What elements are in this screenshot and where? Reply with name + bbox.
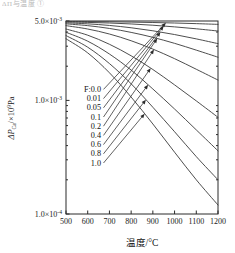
legend-leader-line — [104, 102, 144, 154]
y-axis-title-symbol: ΔP — [6, 129, 16, 140]
y-axis-title: ΔPCa/×109Pa — [6, 96, 17, 140]
x-tick-label: 1100 — [188, 217, 204, 226]
legend-label: 0.8 — [91, 149, 101, 158]
legend-label: 0.4 — [91, 131, 101, 140]
data-curves — [66, 22, 218, 206]
y-tick-label: 5.0×10-3 — [35, 16, 62, 26]
legend-leader-line — [104, 71, 149, 136]
legend-label: 1.0 — [91, 159, 101, 168]
x-tick-label: 600 — [82, 217, 94, 226]
legend-leader-line — [104, 29, 162, 99]
legend-label: 0.1 — [91, 113, 101, 122]
x-tick-labels: 500600700800900100011001200 — [60, 217, 226, 226]
x-axis-title: 温度/°C — [126, 237, 159, 248]
x-tick-label: 1000 — [167, 217, 183, 226]
legend-leader-arrowhead — [147, 68, 151, 73]
legend-block: F:0.00.010.050.10.20.40.60.81.0 — [84, 85, 101, 168]
legend-label: 0.05 — [87, 103, 101, 112]
x-tick-label: 500 — [60, 217, 72, 226]
y-axis-title-unit: Pa — [6, 96, 16, 105]
legend-leader-line — [104, 116, 143, 163]
y-tick-labels: 5.0×10-31.0×10-31.0×10-4 — [35, 16, 62, 219]
x-tick-label: 700 — [103, 217, 115, 226]
x-axis-ticks — [66, 211, 218, 215]
legend-leader-arrowhead — [150, 50, 154, 55]
y-tick-label: 1.0×10-4 — [35, 209, 62, 219]
legend-label: 0.2 — [91, 122, 101, 131]
data-curve — [66, 39, 218, 205]
y-tick-label: 1.0×10-3 — [35, 95, 62, 105]
line-chart: 500600700800900100011001200 5.0×10-31.0×… — [0, 0, 235, 253]
legend-leader-line — [104, 41, 156, 117]
svg-text:ΔPCa/×109Pa: ΔPCa/×109Pa — [6, 96, 17, 140]
data-curve — [66, 26, 218, 80]
x-tick-label: 900 — [147, 217, 159, 226]
x-tick-label: 800 — [125, 217, 137, 226]
x-tick-label: 1200 — [210, 217, 226, 226]
legend-label: 0.01 — [87, 94, 101, 103]
y-axis-title-rest: /×10 — [6, 108, 16, 124]
legend-label: F:0.0 — [84, 85, 101, 94]
legend-label: 0.6 — [91, 140, 101, 149]
legend-leader-arrowhead — [144, 85, 148, 90]
figure-container: ΔΠ与温度 ① 500600700800900100011001200 5.0×… — [0, 0, 235, 253]
